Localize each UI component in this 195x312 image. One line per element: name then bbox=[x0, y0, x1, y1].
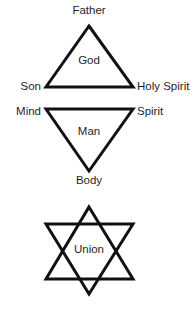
lower-triangle-left-label: Mind bbox=[16, 105, 41, 117]
lower-triangle-right-label: Spirit bbox=[137, 105, 164, 117]
lower-triangle-shape bbox=[46, 109, 133, 171]
upper-triangle-center-label: God bbox=[78, 54, 100, 66]
upper-triangle-left-label: Son bbox=[21, 80, 41, 92]
hexagram-group: Union bbox=[46, 207, 133, 294]
diagram-canvas: Father God Son Holy Spirit Mind Spirit M… bbox=[0, 0, 195, 312]
hexagram-center-label: Union bbox=[74, 243, 104, 255]
lower-triangle-center-label: Man bbox=[78, 125, 100, 137]
trinity-diagram: Father God Son Holy Spirit Mind Spirit M… bbox=[0, 0, 195, 312]
lower-triangle-apex-label: Body bbox=[76, 174, 102, 186]
upper-triangle-apex-label: Father bbox=[72, 4, 105, 16]
upper-triangle-group: Father God Son Holy Spirit bbox=[21, 4, 191, 92]
upper-triangle-right-label: Holy Spirit bbox=[137, 80, 190, 92]
lower-triangle-group: Mind Spirit Man Body bbox=[16, 105, 164, 186]
